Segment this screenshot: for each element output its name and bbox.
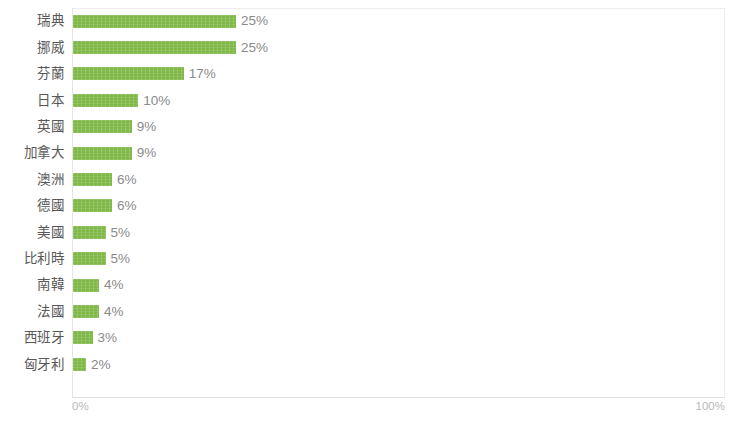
- bar[interactable]: [73, 331, 93, 344]
- bar-row: 加拿大9%: [0, 140, 753, 166]
- bar-and-value: 10%: [73, 87, 170, 113]
- category-label: 加拿大: [0, 146, 64, 160]
- bar-value-label: 9%: [137, 146, 157, 160]
- bar-row: 比利時5%: [0, 246, 753, 272]
- category-label: 法國: [0, 305, 64, 319]
- bar[interactable]: [73, 41, 236, 54]
- bar-and-value: 5%: [73, 246, 130, 272]
- bar[interactable]: [73, 67, 184, 80]
- bar-row: 西班牙3%: [0, 325, 753, 351]
- bar-and-value: 4%: [73, 272, 124, 298]
- bar-value-label: 5%: [111, 252, 131, 266]
- bar[interactable]: [73, 94, 138, 107]
- bar-and-value: 17%: [73, 61, 216, 87]
- bar-value-label: 4%: [104, 278, 124, 292]
- bar-value-label: 25%: [241, 41, 268, 55]
- bar-value-label: 6%: [117, 173, 137, 187]
- bar-and-value: 2%: [73, 351, 111, 377]
- bar-row: 澳洲6%: [0, 166, 753, 192]
- bar[interactable]: [73, 199, 112, 212]
- bar[interactable]: [73, 15, 236, 28]
- bar-value-label: 5%: [111, 226, 131, 240]
- category-label: 挪威: [0, 41, 64, 55]
- bar-rows-container: 瑞典25%挪威25%芬蘭17%日本10%英國9%加拿大9%澳洲6%德國6%美國5…: [0, 8, 753, 398]
- bar-value-label: 10%: [143, 94, 170, 108]
- bar-row: 日本10%: [0, 87, 753, 113]
- bar-row: 南韓4%: [0, 272, 753, 298]
- category-label: 德國: [0, 199, 64, 213]
- bar-and-value: 6%: [73, 166, 137, 192]
- bar-chart: 瑞典25%挪威25%芬蘭17%日本10%英國9%加拿大9%澳洲6%德國6%美國5…: [0, 0, 753, 428]
- category-label: 比利時: [0, 252, 64, 266]
- bar-value-label: 9%: [137, 120, 157, 134]
- bar-value-label: 2%: [91, 358, 111, 372]
- bar-and-value: 6%: [73, 193, 137, 219]
- bar-row: 瑞典25%: [0, 8, 753, 34]
- category-label: 西班牙: [0, 331, 64, 345]
- bar-and-value: 4%: [73, 298, 124, 324]
- bar-and-value: 9%: [73, 114, 156, 140]
- bar[interactable]: [73, 226, 106, 239]
- bar[interactable]: [73, 279, 99, 292]
- bar-and-value: 5%: [73, 219, 130, 245]
- category-label: 英國: [0, 120, 64, 134]
- category-label: 匈牙利: [0, 358, 64, 372]
- x-axis-tick-max: 100%: [696, 401, 725, 413]
- bar-and-value: 9%: [73, 140, 156, 166]
- bar-row: 芬蘭17%: [0, 61, 753, 87]
- x-axis-tick-min: 0%: [72, 401, 89, 413]
- bar-row: 挪威25%: [0, 34, 753, 60]
- bar-value-label: 4%: [104, 305, 124, 319]
- category-label: 澳洲: [0, 173, 64, 187]
- bar[interactable]: [73, 173, 112, 186]
- bar-row: 法國4%: [0, 298, 753, 324]
- bar-value-label: 25%: [241, 14, 268, 28]
- bar-row: 美國5%: [0, 219, 753, 245]
- category-label: 南韓: [0, 278, 64, 292]
- bar[interactable]: [73, 252, 106, 265]
- category-label: 芬蘭: [0, 67, 64, 81]
- bar-value-label: 17%: [189, 67, 216, 81]
- bar-value-label: 3%: [98, 331, 118, 345]
- bar-row: 匈牙利2%: [0, 351, 753, 377]
- bar-and-value: 25%: [73, 8, 268, 34]
- bar-row: 英國9%: [0, 114, 753, 140]
- bar[interactable]: [73, 305, 99, 318]
- bar[interactable]: [73, 358, 86, 371]
- bar-and-value: 3%: [73, 325, 117, 351]
- category-label: 日本: [0, 94, 64, 108]
- category-label: 美國: [0, 226, 64, 240]
- bar-and-value: 25%: [73, 34, 268, 60]
- bar-row: 德國6%: [0, 193, 753, 219]
- category-label: 瑞典: [0, 14, 64, 28]
- bar[interactable]: [73, 120, 132, 133]
- bar[interactable]: [73, 147, 132, 160]
- bar-value-label: 6%: [117, 199, 137, 213]
